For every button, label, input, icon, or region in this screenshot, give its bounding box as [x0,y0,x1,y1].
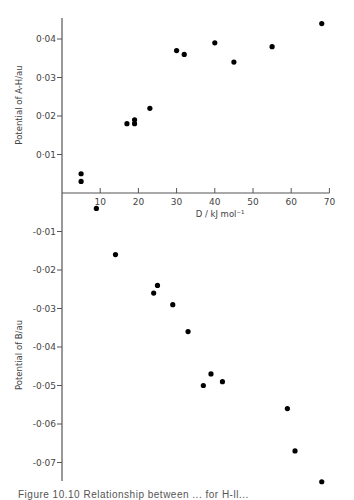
x-tick-label: 10 [94,197,106,207]
y-tick-label: 0·01 [36,150,56,160]
data-point [285,406,290,411]
data-points [79,21,325,484]
data-point [170,302,175,307]
x-tick-label: 40 [209,197,221,207]
x-tick-label: 70 [324,197,336,207]
y-axis-title-top: Potential of A-H/au [14,65,24,144]
y-tick-label: 0·04 [36,34,56,44]
data-point [212,40,217,45]
data-point [174,48,179,53]
y-tick-label: -0·03 [33,304,56,314]
data-point [147,106,152,111]
y-tick-label: -0·06 [33,419,57,429]
y-tick-label: -0·07 [33,458,56,468]
y-tick-label: -0·02 [33,265,56,275]
x-axis-title: D / kJ mol⁻¹ [196,209,245,219]
data-point [185,329,190,334]
data-point [208,371,213,376]
data-point [292,448,297,453]
x-tick-label: 20 [133,197,145,207]
x-tick-label: 50 [247,197,259,207]
data-point [94,206,99,211]
data-point [132,121,137,126]
data-point [79,171,84,176]
data-point [201,383,206,388]
data-point [231,60,236,65]
figure-caption: Figure 10.10 Relationship between ... fo… [18,489,249,500]
data-point [270,44,275,49]
data-point [124,121,129,126]
data-point [113,252,118,257]
y-tick-label: -0·04 [33,342,57,352]
data-point [155,283,160,288]
x-tick-label: 60 [285,197,297,207]
y-tick-label: 0·03 [36,73,56,83]
data-point [79,179,84,184]
data-point [319,479,324,484]
data-point [182,52,187,57]
data-point [319,21,324,26]
y-axis-title-bottom: Potential of B/au [14,320,24,390]
data-point [220,379,225,384]
x-tick-label: 30 [171,197,183,207]
y-tick-label: -0·05 [33,381,56,391]
y-tick-label: -0·01 [33,227,56,237]
axes: 102030405060700·040·030·020·01-0·01-0·02… [33,18,336,481]
data-point [151,291,156,296]
y-tick-label: 0·02 [36,111,56,121]
